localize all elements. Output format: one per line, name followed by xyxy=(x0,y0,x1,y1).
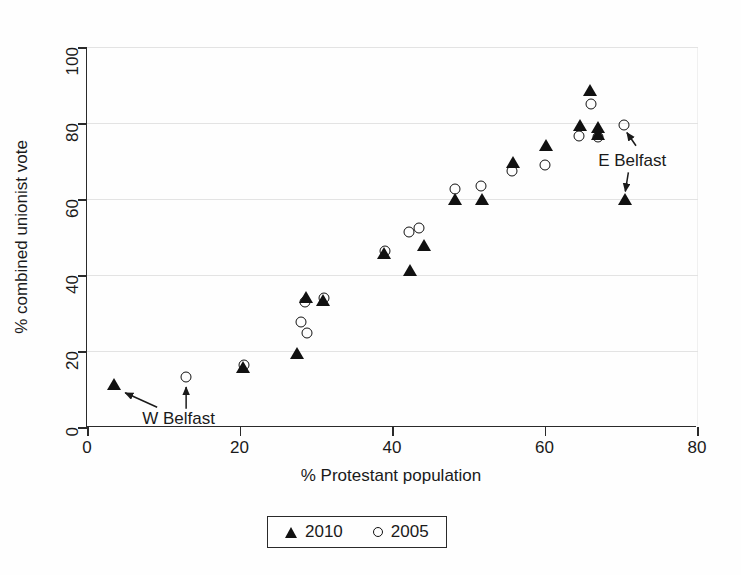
x-axis-tick xyxy=(392,427,394,436)
x-axis-tick-label: 60 xyxy=(535,438,554,458)
x-axis-tick xyxy=(87,427,89,436)
annotation-arrow xyxy=(125,393,157,407)
annotation-arrows xyxy=(87,47,697,427)
x-axis-tick-label: 0 xyxy=(82,438,91,458)
y-axis-title: % combined unionist vote xyxy=(12,140,32,334)
filled-triangle-icon xyxy=(285,527,297,538)
plot-inner: W BelfastE Belfast xyxy=(87,47,696,426)
plot-frame-right xyxy=(697,47,698,426)
x-axis-tick xyxy=(697,427,699,436)
y-axis-tick-label: 0 xyxy=(63,427,83,436)
annotation-arrow xyxy=(627,133,636,146)
legend-entry-2010: 2010 xyxy=(285,522,343,542)
open-circle-icon xyxy=(373,527,383,537)
y-axis-tick-label: 60 xyxy=(63,199,83,218)
y-axis-tick-label: 80 xyxy=(63,123,83,142)
y-axis-tick-label: 40 xyxy=(63,275,83,294)
legend-label-2005: 2005 xyxy=(391,522,429,542)
x-axis-tick-label: 20 xyxy=(230,438,249,458)
legend-entry-2005: 2005 xyxy=(373,522,429,542)
x-axis-tick-label: 40 xyxy=(383,438,402,458)
x-axis-tick xyxy=(545,427,547,436)
x-axis-tick-label: 80 xyxy=(688,438,707,458)
plot-area: W BelfastE Belfast 020406080100 02040608… xyxy=(86,47,696,427)
legend-label-2010: 2010 xyxy=(305,522,343,542)
chart-legend: 2010 2005 xyxy=(267,516,447,548)
y-axis-tick-label: 100 xyxy=(63,47,83,75)
scatter-plot-figure: W BelfastE Belfast 020406080100 02040608… xyxy=(0,0,741,575)
y-axis-tick-label: 20 xyxy=(63,351,83,370)
x-axis-tick xyxy=(240,427,242,436)
x-axis-title: % Protestant population xyxy=(301,466,482,486)
annotation-arrow xyxy=(625,172,628,191)
